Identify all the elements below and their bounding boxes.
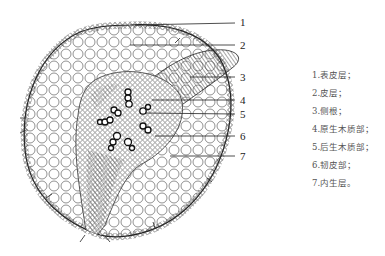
legend-item-epidermis: 1.表皮层； <box>312 66 374 84</box>
legend-item-endodermis: 7.内生层。 <box>312 174 374 192</box>
callout-number-2: 2 <box>240 40 246 51</box>
legend-item-lateral-root: 3.侧根； <box>312 102 374 120</box>
legend-item-metaxylem: 5.后生木质部； <box>312 138 374 156</box>
callout-number-1: 1 <box>240 17 246 28</box>
callout-number-7: 7 <box>240 151 246 162</box>
legend-item-phloem: 6.韧皮部； <box>312 156 374 174</box>
legend-item-protoxylem: 4.原生木质部； <box>312 120 374 138</box>
callout-number-3: 3 <box>240 72 246 83</box>
callout-number-4: 4 <box>240 95 246 106</box>
legend-item-cortex: 2.皮层； <box>312 84 374 102</box>
callout-number-5: 5 <box>240 109 246 120</box>
legend: 1.表皮层； 2.皮层； 3.侧根； 4.原生木质部； 5.后生木质部； 6.韧… <box>312 66 374 192</box>
callout-number-6: 6 <box>240 131 246 142</box>
